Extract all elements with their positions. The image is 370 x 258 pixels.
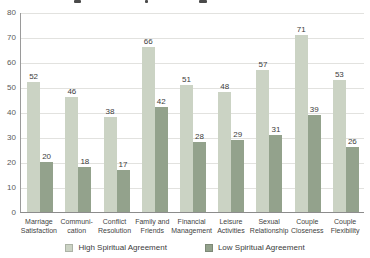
- bar-group-1: 5220: [21, 13, 59, 212]
- bar-group-9: 5326: [327, 13, 365, 212]
- y-tick-label-40: 40: [0, 108, 16, 118]
- bar-wrap: 57: [256, 60, 269, 213]
- high-agreement-bar: [65, 97, 78, 212]
- high-agreement-bar: [256, 70, 269, 213]
- y-tick-label-80: 80: [0, 8, 16, 18]
- x-category-label-5: FinancialManagement: [171, 217, 212, 235]
- high-agreement-bar: [142, 47, 155, 212]
- value-label: 71: [297, 25, 306, 34]
- bar-wrap: 52: [27, 72, 40, 212]
- bar-wrap: 28: [193, 132, 206, 212]
- y-tick-label-50: 50: [0, 83, 16, 93]
- bar-wrap: 29: [231, 130, 244, 213]
- bar-chart: 01020304050607080 5220461838176642512848…: [0, 0, 370, 258]
- value-label: 39: [310, 105, 319, 114]
- x-category-label-1: MarriageSatisfaction: [20, 217, 58, 235]
- high-agreement-bar: [333, 80, 346, 213]
- value-label: 26: [348, 137, 357, 146]
- x-category-label-3: ConflictResolution: [96, 217, 134, 235]
- legend-swatch-icon: [205, 244, 213, 252]
- clipped-title-fragment: [145, 0, 148, 3]
- y-tick-label-60: 60: [0, 58, 16, 68]
- value-label: 17: [119, 160, 128, 169]
- bar-wrap: 20: [40, 152, 53, 212]
- legend-item-low: Low Spiritual Agreement: [205, 243, 305, 252]
- x-category-label-4: Family andFriends: [133, 217, 171, 235]
- bar-wrap: 38: [104, 107, 117, 212]
- y-tick-label-10: 10: [0, 183, 16, 193]
- high-agreement-bar: [27, 82, 40, 212]
- low-agreement-bar: [193, 142, 206, 212]
- legend-label: Low Spiritual Agreement: [218, 243, 305, 252]
- bar-wrap: 51: [180, 75, 193, 213]
- value-label: 51: [182, 75, 191, 84]
- legend-item-high: High Spiritual Agreement: [65, 243, 167, 252]
- legend-swatch-icon: [65, 244, 73, 252]
- x-category-label-7: SexualRelationship: [250, 217, 289, 235]
- bar-wrap: 17: [117, 160, 130, 213]
- value-label: 20: [42, 152, 51, 161]
- bar-wrap: 18: [78, 157, 91, 212]
- value-label: 38: [106, 107, 115, 116]
- value-label: 46: [67, 87, 76, 96]
- y-tick-label-20: 20: [0, 158, 16, 168]
- high-agreement-bar: [180, 85, 193, 213]
- bar-group-5: 5128: [174, 13, 212, 212]
- x-axis-labels: MarriageSatisfactionCommuni-cationConfli…: [20, 217, 364, 235]
- value-label: 31: [271, 125, 280, 134]
- bar-group-4: 6642: [136, 13, 174, 212]
- bar-wrap: 26: [346, 137, 359, 212]
- y-tick-label-0: 0: [0, 208, 16, 218]
- x-category-label-8: CoupleCloseness: [288, 217, 326, 235]
- bar-wrap: 31: [269, 125, 282, 213]
- low-agreement-bar: [231, 140, 244, 213]
- bar-wrap: 66: [142, 37, 155, 212]
- bar-group-2: 4618: [59, 13, 97, 212]
- clipped-title-fragment: [74, 0, 81, 3]
- bar-wrap: 46: [65, 87, 78, 212]
- value-label: 18: [80, 157, 89, 166]
- value-label: 42: [157, 97, 166, 106]
- high-agreement-bar: [104, 117, 117, 212]
- low-agreement-bar: [155, 107, 168, 212]
- legend-label: High Spiritual Agreement: [78, 243, 167, 252]
- bar-group-8: 7139: [289, 13, 327, 212]
- low-agreement-bar: [346, 147, 359, 212]
- high-agreement-bar: [218, 92, 231, 212]
- bar-group-3: 3817: [97, 13, 135, 212]
- value-label: 53: [335, 70, 344, 79]
- value-label: 66: [144, 37, 153, 46]
- high-agreement-bar: [295, 35, 308, 213]
- value-label: 57: [258, 60, 267, 69]
- bar-wrap: 53: [333, 70, 346, 213]
- y-tick-label-70: 70: [0, 33, 16, 43]
- value-label: 52: [29, 72, 38, 81]
- legend: High Spiritual AgreementLow Spiritual Ag…: [0, 243, 370, 252]
- value-label: 48: [220, 82, 229, 91]
- x-category-label-9: CoupleFlexibility: [326, 217, 364, 235]
- bar-group-7: 5731: [250, 13, 288, 212]
- low-agreement-bar: [308, 115, 321, 213]
- plot-area: 522046183817664251284829573171395326: [20, 13, 364, 213]
- low-agreement-bar: [269, 135, 282, 213]
- low-agreement-bar: [40, 162, 53, 212]
- bar-group-6: 4829: [212, 13, 250, 212]
- clipped-title-fragment: [199, 0, 207, 3]
- x-category-label-2: Communi-cation: [58, 217, 96, 235]
- bar-wrap: 39: [308, 105, 321, 213]
- bar-wrap: 71: [295, 25, 308, 213]
- bar-wrap: 42: [155, 97, 168, 212]
- low-agreement-bar: [117, 170, 130, 213]
- y-tick-label-30: 30: [0, 133, 16, 143]
- value-label: 29: [233, 130, 242, 139]
- bar-wrap: 48: [218, 82, 231, 212]
- value-label: 28: [195, 132, 204, 141]
- low-agreement-bar: [78, 167, 91, 212]
- x-category-label-6: LeisureActivities: [212, 217, 250, 235]
